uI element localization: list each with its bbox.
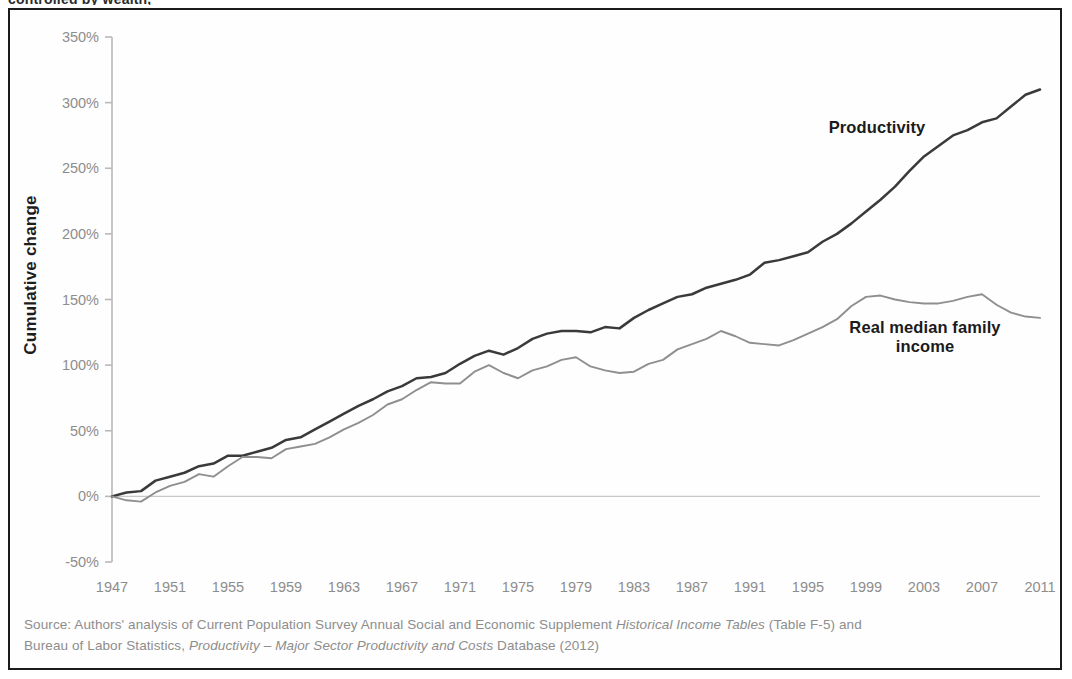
x-tick-label: 1963 bbox=[328, 579, 360, 595]
series-label-real-median-family-income: Real median family income bbox=[836, 318, 1014, 356]
source-line-2-suffix: Database (2012) bbox=[493, 638, 599, 653]
line-chart: 350%300%250%200%150%100%50%0%-50%1947195… bbox=[10, 10, 1064, 610]
source-line-1-prefix: Source: Authors' analysis of Current Pop… bbox=[24, 617, 616, 632]
source-note: Source: Authors' analysis of Current Pop… bbox=[24, 615, 1044, 657]
series-line-productivity bbox=[112, 90, 1040, 497]
y-tick-label: 100% bbox=[62, 357, 99, 373]
series-label-productivity: Productivity bbox=[802, 118, 952, 137]
figure-frame: 350%300%250%200%150%100%50%0%-50%1947195… bbox=[8, 8, 1062, 670]
x-tick-label: 2011 bbox=[1024, 579, 1055, 595]
plot-area: 350%300%250%200%150%100%50%0%-50%1947195… bbox=[10, 10, 1064, 610]
source-line-1-italic: Historical Income Tables bbox=[616, 617, 765, 632]
clipped-top-caption: controlled by wealth, bbox=[8, 0, 408, 5]
y-tick-label: 150% bbox=[62, 292, 99, 308]
x-tick-label: 1987 bbox=[676, 579, 708, 595]
y-tick-label: 250% bbox=[62, 160, 99, 176]
x-tick-label: 2007 bbox=[966, 579, 998, 595]
source-line-1-suffix: (Table F-5) and bbox=[765, 617, 862, 632]
x-tick-label: 1947 bbox=[96, 579, 128, 595]
x-tick-label: 1971 bbox=[444, 579, 476, 595]
y-tick-label: 50% bbox=[70, 423, 99, 439]
source-line-2-italic: Productivity – Major Sector Productivity… bbox=[189, 638, 493, 653]
y-axis-title: Cumulative change bbox=[21, 165, 41, 385]
x-tick-label: 1959 bbox=[270, 579, 302, 595]
x-tick-label: 1995 bbox=[792, 579, 824, 595]
y-tick-label: 300% bbox=[62, 95, 99, 111]
x-tick-label: 1951 bbox=[154, 579, 186, 595]
y-tick-label: 200% bbox=[62, 226, 99, 242]
x-tick-label: 1975 bbox=[502, 579, 534, 595]
x-tick-label: 2003 bbox=[908, 579, 940, 595]
source-divider bbox=[10, 608, 1060, 609]
source-line-2: Bureau of Labor Statistics, Productivity… bbox=[24, 636, 1044, 657]
source-line-1: Source: Authors' analysis of Current Pop… bbox=[24, 615, 1044, 636]
source-line-2-prefix: Bureau of Labor Statistics, bbox=[24, 638, 189, 653]
x-tick-label: 1983 bbox=[618, 579, 650, 595]
y-tick-label: -50% bbox=[65, 554, 99, 570]
x-tick-label: 1955 bbox=[212, 579, 244, 595]
x-tick-label: 1999 bbox=[850, 579, 882, 595]
x-tick-label: 1979 bbox=[560, 579, 592, 595]
x-tick-label: 1991 bbox=[734, 579, 766, 595]
y-tick-label: 350% bbox=[62, 29, 99, 45]
x-tick-label: 1967 bbox=[386, 579, 418, 595]
y-tick-label: 0% bbox=[78, 488, 99, 504]
